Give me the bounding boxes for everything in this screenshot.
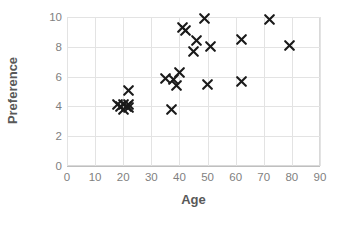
gridline-vertical xyxy=(95,17,96,166)
gridline-vertical xyxy=(236,17,237,166)
x-axis-tick-label: 30 xyxy=(136,171,166,183)
gridline-vertical xyxy=(264,17,265,166)
y-axis-tick-label: 8 xyxy=(22,41,62,53)
y-axis-tick-label: 2 xyxy=(22,130,62,142)
x-axis-tick-label: 20 xyxy=(108,171,138,183)
plot-area xyxy=(67,17,320,166)
y-axis-tick-labels: 0246810 xyxy=(18,17,62,166)
gridline-horizontal xyxy=(67,106,320,107)
gridline-vertical xyxy=(320,17,321,166)
y-axis-tick-label: 10 xyxy=(22,11,62,23)
gridline-vertical xyxy=(179,17,180,166)
x-axis-tick-label: 90 xyxy=(305,171,335,183)
scatter-chart: Preference 0246810 0102030405060708090 A… xyxy=(0,0,341,226)
x-axis-tick-label: 60 xyxy=(221,171,251,183)
x-axis-tick-label: 40 xyxy=(164,171,194,183)
gridline-horizontal xyxy=(67,166,320,167)
y-axis-tick-label: 4 xyxy=(22,100,62,112)
gridline-vertical xyxy=(151,17,152,166)
x-axis-tick-label: 50 xyxy=(193,171,223,183)
gridline-vertical xyxy=(123,17,124,166)
plot-frame xyxy=(67,17,320,166)
x-axis-tick-label: 80 xyxy=(277,171,307,183)
x-axis-tick-labels: 0102030405060708090 xyxy=(67,171,320,189)
y-axis-tick-label: 6 xyxy=(22,71,62,83)
gridline-horizontal xyxy=(67,17,320,18)
x-axis-tick-label: 0 xyxy=(52,171,82,183)
x-axis-tick-label: 10 xyxy=(80,171,110,183)
gridline-vertical xyxy=(67,17,68,166)
x-axis-title: Age xyxy=(67,192,320,207)
gridline-vertical xyxy=(292,17,293,166)
gridline-horizontal xyxy=(67,136,320,137)
gridline-horizontal xyxy=(67,47,320,48)
gridline-horizontal xyxy=(67,77,320,78)
x-axis-tick-label: 70 xyxy=(249,171,279,183)
gridline-vertical xyxy=(208,17,209,166)
